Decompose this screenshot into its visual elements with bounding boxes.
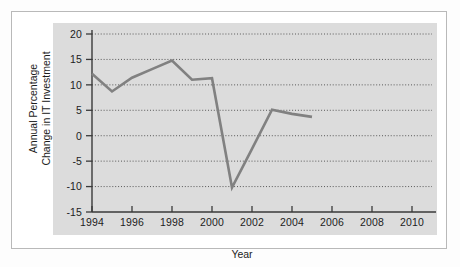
y-tick-label-20: 20 — [60, 28, 82, 40]
y-axis-title-line2: Change in IT Investment — [39, 29, 52, 189]
x-tick-marks — [92, 206, 412, 212]
x-tick-label-2002: 2002 — [232, 216, 272, 228]
y-tick-label-15: 15 — [60, 53, 82, 65]
x-tick-label-2004: 2004 — [272, 216, 312, 228]
x-tick-label-2010: 2010 — [392, 216, 432, 228]
y-tick-marks — [86, 34, 92, 212]
y-tick-label-neg5: -5 — [57, 155, 82, 167]
y-tick-label-5: 5 — [60, 104, 82, 116]
x-tick-label-1998: 1998 — [152, 216, 192, 228]
x-axis-title: Year — [12, 248, 460, 260]
chart-card: 20 15 10 5 0 -5 -10 -15 1994 1996 1998 2… — [11, 11, 447, 249]
data-line-it-investment — [92, 60, 312, 187]
x-tick-label-2008: 2008 — [352, 216, 392, 228]
gridlines — [92, 34, 432, 187]
y-tick-label-0: 0 — [60, 130, 82, 142]
y-tick-label-10: 10 — [60, 79, 82, 91]
x-tick-label-2000: 2000 — [192, 216, 232, 228]
y-axis-title: Annual Percentage Change in IT Investmen… — [27, 29, 52, 189]
x-tick-label-1996: 1996 — [112, 216, 152, 228]
x-tick-label-1994: 1994 — [72, 216, 112, 228]
y-axis-title-line1: Annual Percentage — [27, 29, 40, 189]
y-tick-label-neg10: -10 — [54, 180, 82, 192]
x-tick-label-2006: 2006 — [312, 216, 352, 228]
chart-figure: 20 15 10 5 0 -5 -10 -15 1994 1996 1998 2… — [0, 0, 460, 267]
